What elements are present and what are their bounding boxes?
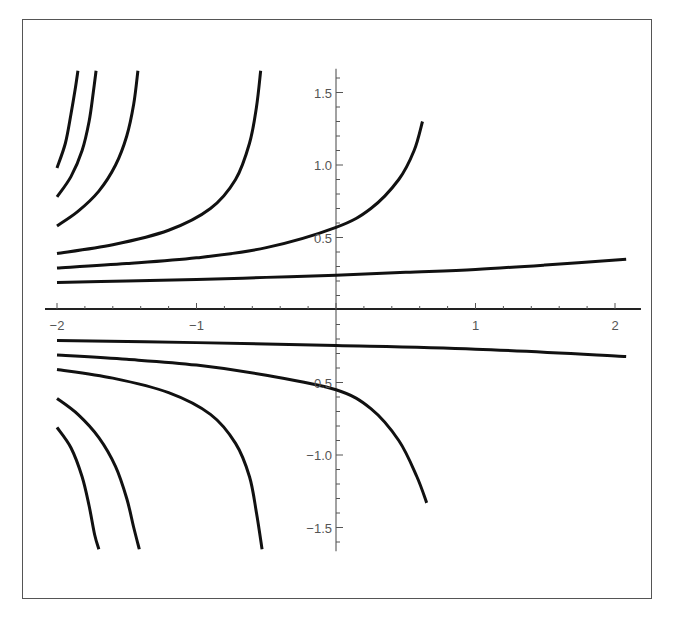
x-tick-label: −1 [189,318,204,333]
y-tick-label: 1.5 [314,86,332,101]
solution-curve-lower-3 [57,369,262,549]
x-tick-label: 1 [472,318,479,333]
y-tick-label: 1.0 [314,158,332,173]
solution-curve-lower-1 [57,340,626,356]
y-tick-label: 0.5 [314,231,332,246]
y-tick-label: −1.5 [306,521,332,536]
y-tick-label: −1.0 [306,448,332,463]
tick-labels: −2−1121.51.00.50.5−1.0−1.5 [50,86,619,536]
x-tick-label: −2 [50,318,65,333]
y-tick-label: 0.5 [314,376,332,391]
x-tick-label: 2 [611,318,618,333]
solution-curve-upper-4 [57,71,138,226]
solution-curve-upper-3 [57,71,261,254]
solution-curve-lower-4 [57,398,139,549]
solution-curve-lower-5 [57,427,99,549]
axes [45,69,641,552]
plot-area: −2−1121.51.00.50.5−1.0−1.5 [0,0,676,617]
solution-curve-upper-6 [57,71,78,168]
